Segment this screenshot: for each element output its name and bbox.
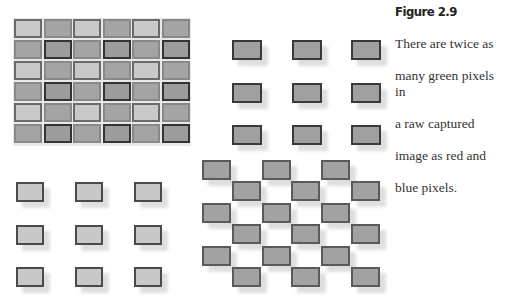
red-pixel-cell — [132, 19, 160, 38]
red-pixel-cell — [73, 19, 101, 38]
blue-pixel-cell — [232, 40, 262, 60]
blue-pixel-cell — [44, 40, 72, 59]
red-pixel-cell — [75, 267, 103, 287]
blue-pixel-cell — [103, 82, 131, 101]
green-pixel-cell — [232, 224, 261, 244]
green-pixel-cell — [262, 160, 291, 180]
green-pixel-cell — [202, 160, 231, 180]
red-pixel-cell — [75, 225, 103, 245]
red-pixel-cell — [73, 103, 101, 122]
green-pixel-cell — [162, 103, 190, 122]
blue-pixel-cell — [292, 125, 322, 145]
red-pixel-cell — [14, 19, 42, 38]
red-pixel-cell — [134, 225, 162, 245]
caption-line: a raw captured — [395, 116, 507, 132]
blue-pixel-cell — [351, 125, 381, 145]
green-pixel-cell — [291, 267, 320, 287]
figure-caption: Figure 2.9 There are twice as many green… — [395, 3, 507, 212]
red-pixel-cell — [16, 182, 44, 202]
red-pixel-cell — [132, 61, 160, 80]
green-pixel-cell — [202, 246, 231, 266]
green-pixel-cell — [262, 246, 291, 266]
red-pixel-cell — [75, 182, 103, 202]
red-pixel-cell — [134, 182, 162, 202]
green-pixel-cell — [132, 124, 160, 143]
green-pixel-cell — [321, 203, 350, 223]
green-pixel-cell — [321, 246, 350, 266]
green-pixel-cell — [232, 181, 261, 201]
figure-title: Figure 2.9 — [395, 3, 496, 20]
figure-caption-text: There are twice as many green pixels in … — [395, 20, 507, 212]
caption-line: many green pixels in — [395, 68, 507, 100]
green-pixel-cell — [321, 160, 350, 180]
blue-pixel-cell — [351, 83, 381, 103]
green-pixel-cell — [44, 19, 72, 38]
green-pixel-cell — [232, 267, 261, 287]
green-pixel-cell — [162, 19, 190, 38]
blue-pixel-cell — [162, 40, 190, 59]
green-pixel-cell — [73, 82, 101, 101]
blue-pixel-cell — [162, 82, 190, 101]
green-pixel-cell — [44, 103, 72, 122]
blue-pixel-cell — [103, 124, 131, 143]
green-pixel-cell — [103, 103, 131, 122]
green-pixel-cell — [162, 61, 190, 80]
caption-line: blue pixels. — [395, 180, 507, 196]
green-pixel-cell — [73, 124, 101, 143]
green-pixel-cell — [291, 181, 320, 201]
green-pixel-cell — [103, 19, 131, 38]
red-pixel-cell — [134, 267, 162, 287]
green-pixel-cell — [202, 203, 231, 223]
red-pixel-cell — [14, 61, 42, 80]
blue-pixel-cell — [103, 40, 131, 59]
blue-pixel-cell — [44, 82, 72, 101]
green-pixel-cell — [73, 40, 101, 59]
green-pixel-cell — [291, 224, 320, 244]
blue-pixel-cell — [232, 125, 262, 145]
green-pixel-cell — [14, 82, 42, 101]
blue-pixel-cell — [162, 124, 190, 143]
blue-pixel-cell — [292, 83, 322, 103]
green-pixel-cell — [132, 82, 160, 101]
caption-line: image as red and — [395, 148, 507, 164]
red-pixel-cell — [16, 225, 44, 245]
red-pixel-cell — [73, 61, 101, 80]
green-pixel-cell — [132, 40, 160, 59]
caption-line: There are twice as — [395, 36, 507, 52]
green-pixel-cell — [14, 124, 42, 143]
green-pixel-cell — [351, 181, 380, 201]
blue-pixel-cell — [351, 40, 381, 60]
red-pixel-cell — [14, 103, 42, 122]
green-pixel-cell — [262, 203, 291, 223]
red-pixel-cell — [16, 267, 44, 287]
blue-pixel-cell — [292, 40, 322, 60]
blue-pixel-cell — [232, 83, 262, 103]
green-pixel-cell — [44, 61, 72, 80]
green-pixel-cell — [14, 40, 42, 59]
green-pixel-cell — [351, 224, 380, 244]
green-pixel-cell — [351, 267, 380, 287]
green-pixel-cell — [103, 61, 131, 80]
blue-pixel-cell — [44, 124, 72, 143]
red-pixel-cell — [132, 103, 160, 122]
